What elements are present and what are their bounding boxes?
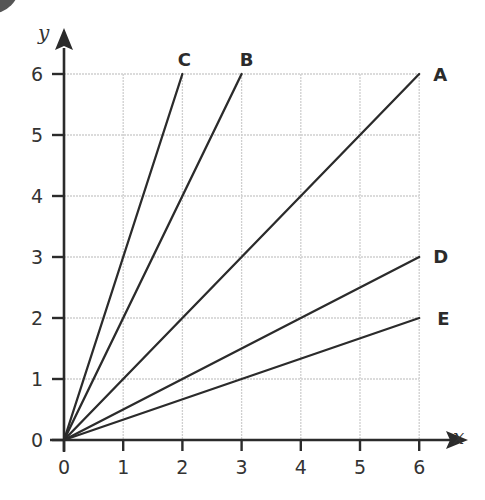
series-labels: ABCDE — [178, 49, 450, 329]
series-label-d: D — [433, 246, 448, 267]
y-tick-label: 3 — [31, 246, 43, 268]
x-tick-label: 1 — [117, 456, 129, 478]
series-label-a: A — [433, 64, 447, 85]
series-label-c: C — [178, 49, 191, 70]
x-tick-label: 4 — [295, 456, 307, 478]
y-tick-label: 1 — [31, 368, 43, 390]
series-label-b: B — [240, 49, 254, 70]
x-tick-label: 5 — [354, 456, 366, 478]
y-tick-label: 0 — [31, 429, 43, 451]
x-tick-label: 6 — [413, 456, 425, 478]
y-tick-label: 4 — [31, 185, 43, 207]
y-tick-label: 5 — [31, 124, 43, 146]
line-chart: 01234560123456 ABCDE x y — [0, 0, 485, 500]
y-axis-label: y — [37, 21, 50, 45]
x-axis-label: x — [453, 425, 464, 449]
y-tick-label: 2 — [31, 307, 43, 329]
y-tick-label: 6 — [31, 63, 43, 85]
x-tick-label: 0 — [58, 456, 70, 478]
y-axis-arrow-icon — [55, 28, 73, 50]
x-tick-label: 2 — [176, 456, 188, 478]
series-label-e: E — [437, 308, 449, 329]
x-tick-label: 3 — [236, 456, 248, 478]
